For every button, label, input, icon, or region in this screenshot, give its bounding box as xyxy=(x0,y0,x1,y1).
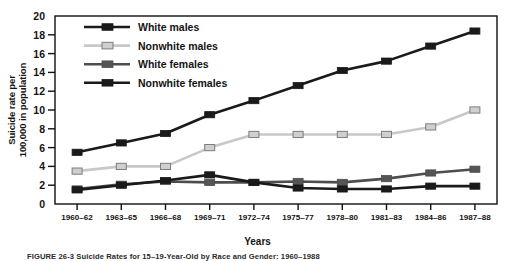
data-point xyxy=(382,186,392,192)
legend-marker xyxy=(102,61,113,68)
data-point xyxy=(72,187,82,193)
data-point xyxy=(249,131,259,137)
data-point xyxy=(205,112,215,118)
data-point xyxy=(470,28,480,34)
y-axis-tick-label: 2 xyxy=(39,179,45,191)
legend-item-white-females: White females xyxy=(84,58,209,70)
y-axis-tick-label: 4 xyxy=(39,160,45,172)
data-point xyxy=(426,170,436,176)
x-axis-tick-label: 1984–86 xyxy=(415,213,447,222)
legend-label: Nonwhite females xyxy=(138,77,227,89)
data-point xyxy=(161,177,171,183)
x-axis-tick-label: 1972–74 xyxy=(238,213,270,222)
figure-caption-text: Suicide Rates for 15–19-Year-Old by Race… xyxy=(76,252,319,261)
data-point xyxy=(382,131,392,137)
data-point xyxy=(116,140,126,146)
y-axis-tick-label: 10 xyxy=(33,104,45,116)
legend-label: White females xyxy=(138,58,209,70)
data-point xyxy=(337,179,347,185)
figure-caption-number: FIGURE 26-3 xyxy=(27,252,74,261)
data-point xyxy=(382,176,392,182)
data-point xyxy=(161,163,171,169)
legend-marker xyxy=(102,24,113,31)
x-axis-tick-label: 1969–71 xyxy=(194,213,226,222)
x-axis-tick-label: 1960–62 xyxy=(61,213,93,222)
x-axis-tick-label: 1975–77 xyxy=(282,213,314,222)
data-point xyxy=(249,98,259,104)
data-point xyxy=(470,183,480,189)
legend-marker xyxy=(102,80,113,87)
data-point xyxy=(205,145,215,151)
x-axis-tick-label: 1981–83 xyxy=(371,213,403,222)
legend-label: Nonwhite males xyxy=(138,40,218,52)
data-point xyxy=(249,179,259,185)
data-point xyxy=(293,131,303,137)
data-point xyxy=(161,130,171,136)
data-point xyxy=(426,124,436,130)
y-axis-tick-label: 8 xyxy=(39,123,45,135)
figure-caption: FIGURE 26-3 Suicide Rates for 15–19-Year… xyxy=(27,252,497,261)
legend-item-nonwhite-females: Nonwhite females xyxy=(84,77,227,89)
legend-item-nonwhite-males: Nonwhite males xyxy=(84,40,218,52)
data-point xyxy=(116,163,126,169)
x-axis-tick-label: 1963–65 xyxy=(106,213,138,222)
y-axis-tick-label: 6 xyxy=(39,142,45,154)
y-axis-tick-label: 18 xyxy=(33,29,45,41)
data-point xyxy=(426,183,436,189)
data-point xyxy=(293,82,303,88)
data-point xyxy=(470,166,480,172)
data-point xyxy=(337,67,347,73)
data-point xyxy=(382,58,392,64)
data-point xyxy=(72,168,82,174)
data-point xyxy=(426,43,436,49)
x-axis-tick-label: 1978–80 xyxy=(327,213,359,222)
x-axis-tick-label: 1987–88 xyxy=(459,213,491,222)
x-axis-tick-label: 1966–68 xyxy=(150,213,182,222)
data-point xyxy=(205,172,215,178)
data-point xyxy=(337,186,347,192)
x-axis-title: Years xyxy=(0,236,515,247)
data-point xyxy=(116,182,126,188)
legend-label: White males xyxy=(138,21,199,33)
y-axis-tick-label: 14 xyxy=(33,66,45,78)
figure-container: Suicide rate per 100,000 in population 0… xyxy=(0,0,515,261)
y-axis-tick-label: 20 xyxy=(33,10,45,22)
data-point xyxy=(205,179,215,185)
y-axis-tick-label: 12 xyxy=(33,85,45,97)
y-axis-tick-label: 0 xyxy=(39,198,45,210)
series-white-males xyxy=(72,28,480,155)
data-point xyxy=(293,185,303,191)
data-point xyxy=(337,131,347,137)
legend-item-white-males: White males xyxy=(84,21,199,33)
data-point xyxy=(72,149,82,155)
y-axis-tick-label: 16 xyxy=(33,48,45,60)
data-point xyxy=(470,107,480,113)
data-point xyxy=(293,178,303,184)
chart-svg: 024681012141618201960–621963–651966–6819… xyxy=(0,0,515,261)
legend-marker xyxy=(102,42,113,49)
